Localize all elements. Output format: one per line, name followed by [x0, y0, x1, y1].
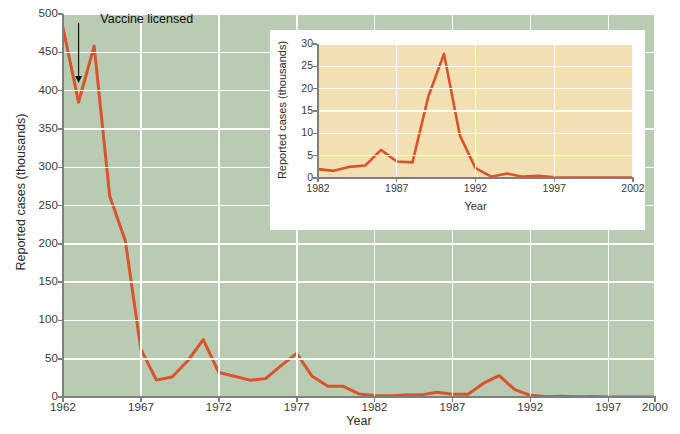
x-tick-mark	[554, 178, 555, 182]
y-tick-mark	[58, 320, 63, 322]
x-tick-mark	[374, 397, 376, 402]
x-tick-label: 1992	[450, 182, 502, 194]
y-tick-mark	[313, 66, 317, 67]
y-tick-label: 20	[301, 82, 313, 94]
x-tick-mark	[218, 397, 220, 402]
x-tick-label: 1972	[189, 401, 249, 413]
x-tick-label: 1977	[267, 401, 327, 413]
main-x-axis	[62, 396, 656, 398]
x-tick-label: 2000	[625, 401, 680, 413]
x-tick-label: 1987	[422, 401, 482, 413]
y-tick-label: 15	[301, 104, 313, 116]
vaccine-annotation-label: Vaccine licensed	[100, 12, 193, 26]
x-tick-label: 1982	[292, 182, 344, 194]
y-tick-mark	[58, 90, 63, 92]
gridline-vertical	[218, 14, 220, 397]
gridline-vertical	[632, 44, 633, 178]
gridline-vertical	[396, 44, 397, 178]
y-tick-mark	[313, 133, 317, 134]
x-tick-label: 1997	[528, 182, 580, 194]
chart-figure: 050100150200250300350400450500 196219671…	[0, 0, 680, 434]
y-tick-label: 250	[39, 199, 59, 211]
inset-x-axis-label: Year	[318, 200, 633, 212]
gridline-vertical	[475, 44, 476, 178]
x-tick-label: 1992	[500, 401, 560, 413]
inset-plot-area	[318, 44, 633, 178]
main-y-axis-label: Reported cases (thousands)	[14, 77, 28, 307]
y-tick-label: 350	[39, 122, 59, 134]
x-tick-label: 1962	[33, 401, 93, 413]
y-tick-label: 10	[301, 126, 313, 138]
x-tick-mark	[608, 397, 610, 402]
main-x-axis-label: Year	[63, 414, 655, 428]
gridline-horizontal	[63, 320, 655, 322]
gridline-vertical	[654, 14, 656, 397]
y-tick-mark	[313, 43, 317, 44]
y-tick-label: 450	[39, 45, 59, 57]
x-tick-mark	[654, 397, 656, 402]
gridline-vertical	[554, 44, 555, 178]
y-tick-mark	[58, 205, 63, 207]
gridline-horizontal	[63, 243, 655, 245]
x-tick-mark	[317, 178, 318, 182]
x-tick-mark	[62, 397, 64, 402]
y-tick-mark	[58, 13, 63, 15]
y-tick-mark	[58, 243, 63, 245]
y-tick-mark	[58, 281, 63, 283]
x-tick-mark	[452, 397, 454, 402]
x-tick-mark	[632, 178, 633, 182]
gridline-vertical	[140, 14, 142, 397]
y-tick-label: 30	[301, 37, 313, 49]
y-tick-label: 400	[39, 84, 59, 96]
x-tick-label: 2002	[607, 182, 659, 194]
y-tick-mark	[58, 128, 63, 130]
y-tick-mark	[58, 52, 63, 54]
y-tick-label: 300	[39, 160, 59, 172]
x-tick-mark	[140, 397, 142, 402]
y-tick-label: 100	[39, 313, 59, 325]
x-tick-label: 1982	[345, 401, 405, 413]
inset-panel: 051015202530 19821987199219972002 Report…	[270, 30, 645, 230]
y-tick-mark	[313, 110, 317, 111]
x-tick-mark	[530, 397, 532, 402]
inset-y-axis	[317, 44, 319, 178]
y-tick-mark	[58, 167, 63, 169]
x-tick-mark	[475, 178, 476, 182]
y-tick-mark	[313, 155, 317, 156]
y-tick-label: 50	[45, 352, 58, 364]
x-tick-label: 1967	[111, 401, 171, 413]
gridline-horizontal	[63, 358, 655, 360]
y-tick-label: 200	[39, 237, 59, 249]
inset-y-axis-label: Reported cases (thousands)	[276, 36, 288, 184]
y-tick-mark	[58, 358, 63, 360]
gridline-horizontal	[63, 281, 655, 283]
y-tick-label: 500	[39, 7, 59, 19]
y-tick-label: 150	[39, 275, 59, 287]
y-tick-mark	[313, 88, 317, 89]
x-tick-label: 1987	[371, 182, 423, 194]
x-tick-mark	[396, 178, 397, 182]
y-tick-label: 25	[301, 59, 313, 71]
x-tick-mark	[296, 397, 298, 402]
